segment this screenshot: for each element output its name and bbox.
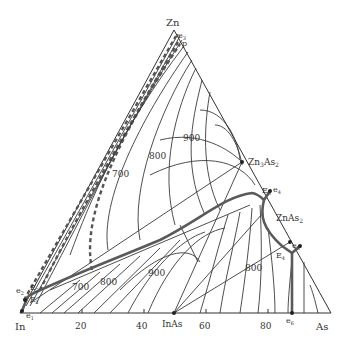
point-label-E4: E4	[276, 251, 285, 261]
point-label-e5: e5	[292, 241, 300, 251]
tick-label-40: 40	[136, 321, 148, 331]
eutectic-valleys	[22, 191, 300, 313]
triangle-frame	[20, 30, 331, 313]
tick-label-80: 80	[260, 321, 272, 331]
compound-label-zn3as2: Zn3As2	[248, 157, 279, 168]
isotherms-left	[70, 46, 220, 255]
in-zn-boundary-lines	[24, 34, 182, 306]
isotherm-label-900-top: 900	[183, 133, 200, 143]
compound-label-znas2: ZnAs2	[276, 213, 303, 224]
point-label-p: p	[182, 39, 187, 48]
valley-e3-e4b	[262, 200, 292, 253]
isotherms-right	[120, 110, 318, 313]
isotherm-label-700-top: 700	[112, 169, 129, 179]
tick-label-60: 60	[199, 321, 211, 331]
isotherm-label-800-bottom: 800	[100, 277, 117, 287]
vertex-label-as: As	[315, 321, 328, 332]
point-label-e2: e2	[16, 286, 24, 296]
isotherm-label-800-top: 800	[149, 151, 166, 161]
isotherm-label-700-bottom: 700	[72, 282, 89, 292]
compound-label-inas: InAs	[162, 319, 183, 329]
point-label-e4-small: e4	[273, 185, 281, 195]
point-label-e4: E3	[262, 186, 271, 196]
isotherms-lower-left	[40, 228, 225, 313]
isotherm-label-800-right: 800	[245, 263, 262, 273]
vertex-label-in: In	[15, 321, 26, 332]
ternary-phase-diagram: Zn In As 20 40 60 80 InAs Zn3As2 ZnAs2 e…	[0, 0, 345, 340]
tick-label-20: 20	[75, 321, 87, 331]
isotherm-label-900-bottom: 900	[148, 268, 165, 278]
tie-lines	[30, 162, 290, 313]
vertex-label-zn: Zn	[166, 17, 180, 28]
point-label-E1: E1	[30, 295, 39, 305]
point-label-e6: e6	[286, 316, 294, 326]
